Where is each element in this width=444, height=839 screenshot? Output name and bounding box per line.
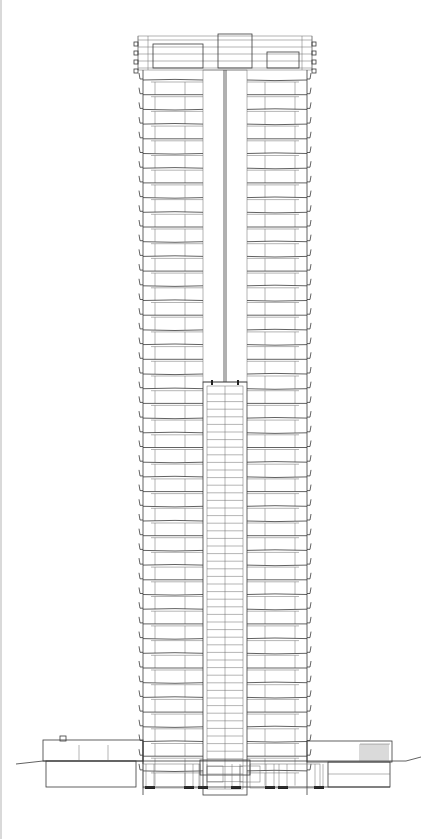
tower-section-drawing — [0, 0, 444, 839]
roof-crown — [134, 34, 316, 73]
elevator-core — [203, 70, 247, 795]
podium-base — [16, 736, 421, 789]
